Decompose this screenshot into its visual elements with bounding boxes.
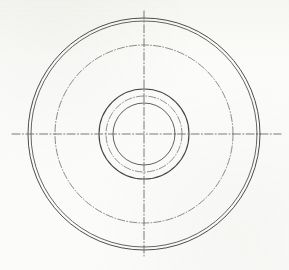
drawing-canvas: [0, 0, 289, 270]
drawing-background: [0, 0, 289, 270]
technical-drawing-svg: [0, 0, 289, 270]
